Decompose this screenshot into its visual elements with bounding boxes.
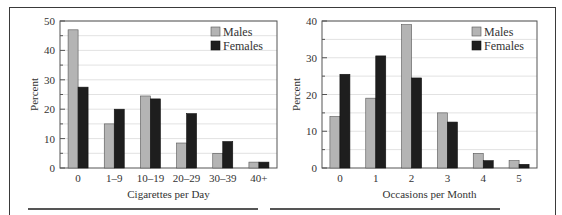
x-tick-label: 2: [409, 172, 415, 184]
chart-2: 010203040Percent012345Occasions per Mont…: [290, 15, 537, 200]
y-tick-label: 30: [306, 52, 318, 64]
bar-males: [402, 25, 412, 168]
y-tick-label: 40: [306, 15, 318, 27]
bar-females: [376, 56, 386, 168]
legend-swatch-males: [472, 27, 481, 36]
bar-males: [437, 113, 447, 168]
x-tick-label: 1: [373, 172, 379, 184]
bar-females: [483, 161, 493, 168]
chart1-bottom-rule: [28, 208, 258, 210]
y-tick-label: 0: [312, 162, 318, 174]
x-tick-label: 0: [337, 172, 343, 184]
bar-males: [473, 153, 483, 168]
bar-females: [412, 78, 422, 168]
bar-females: [340, 74, 350, 168]
bar-males: [330, 117, 340, 168]
x-tick-label: 4: [481, 172, 487, 184]
x-axis-label: Occasions per Month: [382, 188, 477, 200]
y-tick-label: 10: [306, 125, 318, 137]
legend-swatch-females: [472, 41, 481, 50]
bar-males: [509, 161, 519, 168]
x-tick-label: 3: [445, 172, 451, 184]
x-tick-label: 5: [516, 172, 522, 184]
bar-females: [447, 122, 457, 168]
chart2-bottom-rule: [270, 208, 500, 210]
bar-males: [366, 98, 376, 168]
y-tick-label: 20: [306, 89, 318, 101]
bar-females: [519, 164, 529, 168]
occasions-per-month-chart: 010203040Percent012345Occasions per Mont…: [0, 0, 562, 215]
y-axis-label: Percent: [290, 78, 302, 111]
legend-label-females: Females: [484, 39, 524, 53]
legend-label-males: Males: [484, 25, 514, 39]
